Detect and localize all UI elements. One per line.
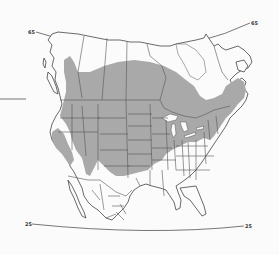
- haida-gwaii: [43, 58, 46, 68]
- latitude-line-bottom: [32, 224, 244, 231]
- latitude-label-top-left: 65: [28, 29, 35, 35]
- range-map: 65 65 25 25: [0, 0, 279, 255]
- latitude-label-bottom-right: 25: [245, 223, 252, 229]
- latitude-label-top-right: 65: [251, 20, 258, 26]
- map-canvas: 65 65 25 25: [0, 0, 279, 255]
- latitude-label-bottom-left: 25: [25, 221, 32, 227]
- florida: [180, 186, 206, 216]
